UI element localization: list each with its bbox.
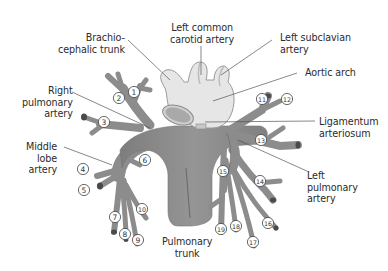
segment-marker-11: 11	[256, 93, 267, 104]
svg-text:18: 18	[232, 223, 240, 230]
segment-marker-15: 15	[217, 165, 228, 176]
segment-marker-18: 18	[230, 220, 241, 231]
svg-text:9: 9	[136, 236, 141, 245]
svg-text:12: 12	[283, 96, 291, 103]
segment-marker-2: 2	[113, 92, 124, 103]
segment-marker-7: 7	[109, 211, 120, 222]
svg-text:16: 16	[264, 220, 272, 227]
label-aortic-arch: Aortic arch	[305, 67, 356, 79]
svg-text:4: 4	[81, 165, 86, 174]
svg-text:5: 5	[82, 186, 87, 195]
segment-marker-8: 8	[119, 228, 130, 239]
svg-text:2: 2	[117, 94, 122, 103]
pulmonary-artery-diagram: 12345678910111213141516171819 Brachio- c…	[0, 0, 388, 271]
svg-text:1: 1	[132, 88, 137, 97]
label-brachiocephalic-trunk: Brachio- cephalic trunk	[58, 32, 125, 55]
label-left-subclavian: Left subclavian artery	[280, 32, 351, 55]
segment-marker-19: 19	[215, 223, 226, 234]
svg-text:15: 15	[219, 168, 227, 175]
segment-marker-5: 5	[78, 184, 89, 195]
svg-text:3: 3	[102, 118, 107, 127]
segment-marker-9: 9	[132, 234, 143, 245]
svg-text:19: 19	[217, 226, 225, 233]
segment-marker-4: 4	[77, 163, 88, 174]
label-left-common-carotid: Left common carotid artery	[170, 22, 234, 45]
segment-marker-6: 6	[139, 154, 150, 165]
svg-text:6: 6	[143, 156, 148, 165]
svg-text:11: 11	[258, 96, 266, 103]
svg-text:17: 17	[249, 239, 257, 246]
segment-marker-12: 12	[281, 93, 292, 104]
svg-text:10: 10	[138, 206, 146, 213]
segment-marker-13: 13	[255, 134, 266, 145]
segment-marker-10: 10	[136, 203, 147, 214]
segment-marker-17: 17	[247, 236, 258, 247]
label-ligamentum-arteriosum: Ligamentum arteriosum	[319, 116, 379, 139]
segment-marker-3: 3	[98, 116, 109, 127]
segment-marker-14: 14	[254, 175, 265, 186]
segment-marker-16: 16	[262, 217, 273, 228]
svg-text:7: 7	[113, 213, 118, 222]
label-middle-lobe-artery: Middle lobe artery	[26, 141, 57, 176]
svg-text:13: 13	[257, 137, 265, 144]
label-left-pulmonary-artery: Left pulmonary artery	[307, 170, 358, 205]
svg-text:8: 8	[123, 230, 128, 239]
label-pulmonary-trunk: Pulmonary trunk	[162, 236, 212, 259]
segment-marker-1: 1	[128, 86, 139, 97]
label-right-pulmonary-artery: Right pulmonary artery	[22, 85, 73, 120]
svg-text:14: 14	[256, 178, 264, 185]
